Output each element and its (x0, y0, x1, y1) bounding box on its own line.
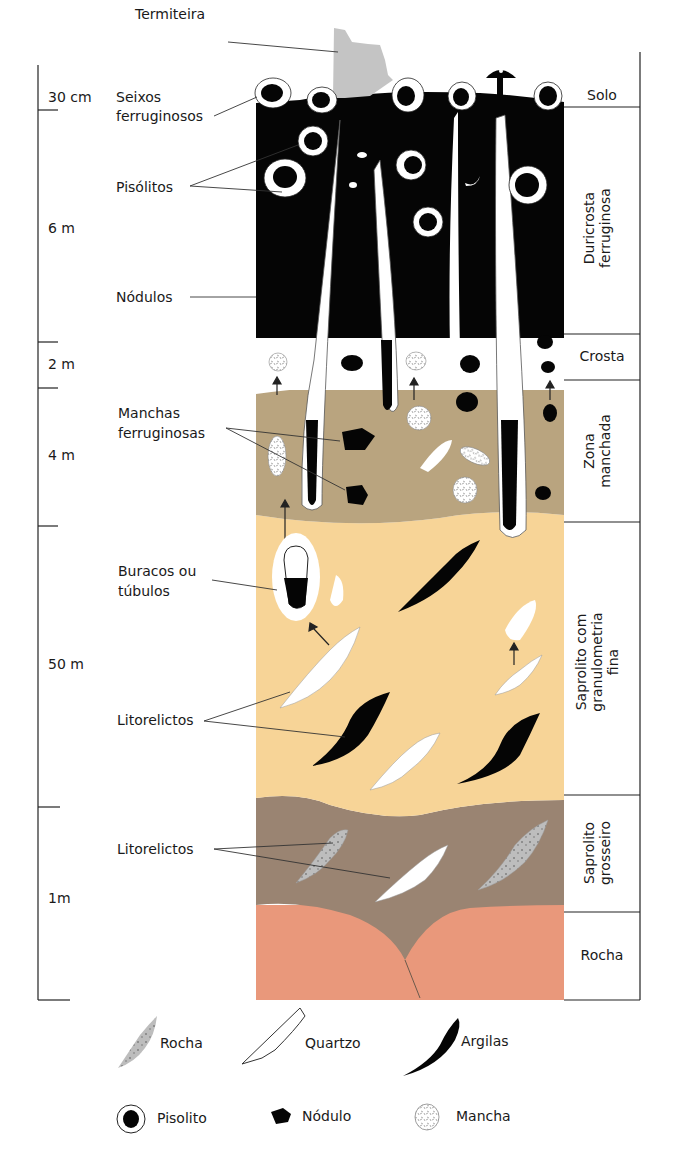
depth-label-6m: 6 m (48, 220, 75, 236)
zone-label-duricrosta-line2: ferruginosa (597, 153, 613, 303)
depth-label-4m: 4 m (48, 447, 75, 463)
termite-mound (333, 28, 393, 98)
pisolite-icon (117, 1105, 145, 1133)
rock-icon (118, 1016, 157, 1068)
depth-label-1m: 1m (48, 890, 71, 906)
zone-label-saprolito-grosseiro: Saprolito grosseiro (581, 798, 621, 908)
callout-litorelictos-lower: Litorelictos (117, 841, 194, 858)
zone-label-rocha: Rocha (566, 947, 638, 963)
callout-buracos-line2: túbulos (118, 583, 170, 600)
zone-label-duricrosta-line1: Duricrosta (581, 153, 597, 303)
callout-nodulos: Nódulos (116, 289, 173, 306)
zone-label-zona-manchada-line1: Zona (581, 396, 597, 506)
legend-label-pisolito: Pisolito (157, 1110, 207, 1126)
depth-scale (38, 65, 70, 1000)
clay-icon (403, 1018, 459, 1076)
zone-label-saprolito-fino-line3: fina (605, 582, 621, 742)
callout-manchas-line2: ferruginosas (118, 425, 205, 442)
nodule-icon (271, 1108, 291, 1124)
zone-label-saprolito-fino-line2: granulometria (589, 582, 605, 742)
burrow (272, 533, 320, 621)
legend-label-mancha: Mancha (456, 1108, 511, 1124)
callout-buracos-line1: Buracos ou (118, 563, 196, 580)
legend-label-argilas: Argilas (461, 1033, 509, 1049)
legend-label-quartzo: Quartzo (305, 1035, 361, 1051)
zone-label-crosta: Crosta (566, 348, 638, 364)
legend-label-nodulo: Nódulo (302, 1108, 351, 1124)
depth-label-50m: 50 m (48, 656, 84, 672)
mottle-icon (415, 1104, 439, 1130)
legend-label-rocha: Rocha (160, 1035, 203, 1051)
callout-seixos-line1: Seixos (116, 89, 161, 106)
mushroom-icon (486, 69, 516, 95)
zone-label-solo: Solo (566, 87, 638, 103)
callout-termiteira: Termiteira (135, 6, 205, 23)
depth-label-2m: 2 m (48, 356, 75, 372)
callout-seixos-line2: ferruginosos (116, 108, 203, 125)
callout-manchas-line1: Manchas (118, 405, 180, 422)
callout-litorelictos-upper: Litorelictos (117, 712, 194, 729)
zone-label-saprolito-grosseiro-line2: grosseiro (597, 798, 613, 908)
zone-label-saprolito-fino-line1: Saprolito com (573, 582, 589, 742)
quartz-icon (242, 1008, 305, 1064)
zone-label-saprolito-grosseiro-line1: Saprolito (581, 798, 597, 908)
callout-pisolitos: Pisólitos (116, 179, 173, 196)
depth-label-30cm: 30 cm (48, 89, 92, 105)
zone-label-zona-manchada-line2: manchada (597, 396, 613, 506)
zone-label-zona-manchada: Zona manchada (581, 396, 621, 506)
zone-label-saprolito-fino: Saprolito com granulometria fina (573, 582, 629, 742)
zone-label-duricrosta: Duricrosta ferruginosa (581, 153, 621, 303)
